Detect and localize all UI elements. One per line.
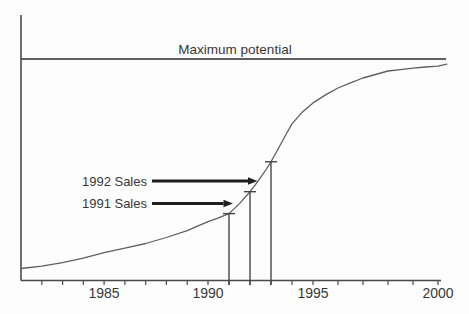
x-tick-label-1985: 1985 [89,285,120,301]
x-axis: 1985199019952000 [21,281,454,302]
sales-curve [21,64,447,268]
max-potential-label: Maximum potential [178,42,291,57]
scanned-figure-page: Maximum potential 1985199019952000 1992 … [0,0,469,314]
annotation-1992-label: 1992 Sales [82,174,148,189]
x-tick-label-1990: 1990 [192,285,223,301]
arrow-1991-icon [152,200,233,207]
sales-marker-1992 [244,192,256,285]
x-tick-label-1995: 1995 [297,285,328,301]
annotation-1991-label: 1991 Sales [82,196,148,211]
x-axis-tick-labels: 1985199019952000 [89,285,454,301]
annotation-1991-sales: 1991 Sales [82,196,233,211]
sales-marker-1993 [265,162,277,285]
annotation-1992-sales: 1992 Sales [82,174,258,189]
s-curve-chart: Maximum potential 1985199019952000 1992 … [0,0,469,314]
x-tick-label-2000: 2000 [422,285,453,301]
arrow-1992-icon [152,177,258,184]
sales-marker-1991 [223,214,235,285]
